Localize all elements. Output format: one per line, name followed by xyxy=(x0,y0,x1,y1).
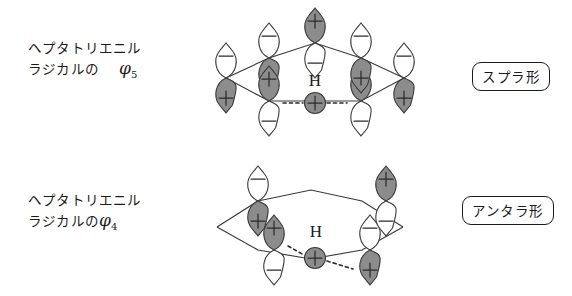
supra-orbital-6 xyxy=(351,23,371,93)
antara-hbond-right xyxy=(327,261,353,269)
supra-hydrogen-label: H xyxy=(309,71,321,90)
supra-orbital-4 xyxy=(305,8,325,78)
diagram-antarafacial: H xyxy=(217,166,403,285)
supra-hydrogen-orbital xyxy=(305,93,326,114)
supra-orbital-1 xyxy=(216,43,236,113)
antara-orbital-4 xyxy=(376,166,396,236)
figure-canvas: ヘプタトリエニル ラジカルのφ5 ヘプタトリエニル ラジカルのφ4 スプラ形 ア… xyxy=(0,0,572,296)
antara-hydrogen-label: H xyxy=(310,222,322,241)
antara-hbond-left xyxy=(288,246,304,255)
orbital-diagrams-svg: .lb-fill { fill:#8c8c8c; stroke:#3a3a3a;… xyxy=(0,0,572,296)
antara-hydrogen-orbital xyxy=(305,248,326,269)
diagram-suprafacial: H xyxy=(216,8,414,136)
antara-orbital-1 xyxy=(248,166,268,236)
antara-orbital-2 xyxy=(264,215,284,285)
supra-orbital-7 xyxy=(394,43,414,113)
